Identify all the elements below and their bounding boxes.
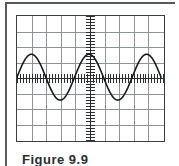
oscilloscope-screen bbox=[16, 15, 165, 142]
figure-frame-top-border bbox=[5, 2, 175, 4]
waveform-trace bbox=[17, 16, 164, 141]
figure-caption: Figure 9.9 bbox=[22, 152, 172, 166]
figure-frame-left-border bbox=[5, 2, 7, 166]
figure-root: Figure 9.9 bbox=[0, 0, 179, 166]
